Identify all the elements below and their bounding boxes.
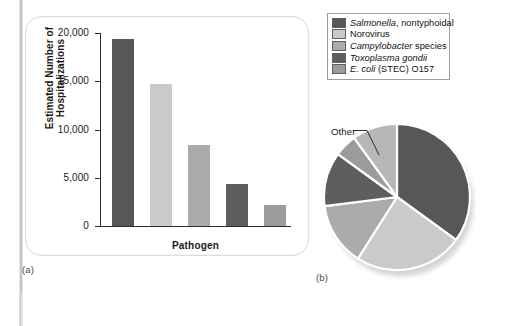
- y-axis-line: [100, 33, 101, 226]
- bar: [264, 205, 286, 226]
- legend-item-label-plain: (STEC) O157: [375, 64, 434, 74]
- legend-swatch-icon: [332, 18, 346, 28]
- legend-swatch-icon: [332, 53, 346, 63]
- page-gutter: [19, 0, 23, 326]
- legend-swatch-icon: [332, 29, 346, 39]
- bar: [226, 184, 248, 226]
- y-axis-tick-label: 15,000: [33, 75, 89, 86]
- bar-chart-plot-area: 05,00010,00015,00020,000: [100, 33, 290, 226]
- bar-chart-x-axis-label: Pathogen: [100, 240, 291, 251]
- legend-item: Norovirus: [332, 29, 445, 41]
- legend-item: Salmonella, nontyphoidal: [332, 17, 445, 29]
- legend-item-label: Toxoplasma gondii: [350, 53, 427, 63]
- figure-caption-b: (b): [316, 272, 328, 283]
- legend-item-label-italic: E. coli: [350, 64, 375, 74]
- y-axis-tick-label: 20,000: [33, 27, 89, 38]
- bar-chart-panel: Estimated Number of Hospitalizations 05,…: [25, 16, 309, 256]
- y-axis-tick: [95, 33, 100, 34]
- legend-item-label-italic: Campylobacter: [350, 41, 412, 51]
- legend-item-label: Norovirus: [350, 29, 390, 39]
- legend-item-label: Campylobacter species: [350, 41, 447, 51]
- chart-legend: Salmonella, nontyphoidalNorovirusCampylo…: [327, 13, 450, 80]
- legend-item-label-plain: species: [412, 41, 446, 51]
- x-axis-line: [100, 226, 291, 227]
- pie-annotation-other: Other: [331, 126, 356, 137]
- pie-chart-panel: Salmonella, nontyphoidal: 35Norovirus: 2…: [322, 122, 474, 274]
- bar: [112, 39, 134, 226]
- legend-item-label-italic: Toxoplasma gondii: [350, 53, 427, 63]
- bar: [150, 84, 172, 226]
- y-axis-tick: [95, 130, 100, 131]
- y-axis-tick-label: 5,000: [33, 172, 89, 183]
- y-axis-tick: [95, 178, 100, 179]
- y-axis-tick: [95, 81, 100, 82]
- legend-item: Campylobacter species: [332, 40, 445, 52]
- legend-item: Toxoplasma gondii: [332, 52, 445, 64]
- y-axis-tick-label: 0: [33, 220, 89, 231]
- figure-caption-a: (a): [22, 264, 34, 275]
- pie-chart-graphic: Salmonella, nontyphoidal: 35Norovirus: 2…: [322, 122, 474, 274]
- page-gutter-lower: [19, 293, 22, 326]
- legend-item-label-plain: Norovirus: [350, 29, 390, 39]
- legend-item-label: Salmonella, nontyphoidal: [350, 18, 454, 28]
- y-axis-tick-label: 10,000: [33, 124, 89, 135]
- legend-swatch-icon: [332, 64, 346, 74]
- bar: [188, 145, 210, 226]
- legend-item-label-italic: Salmonella: [350, 18, 396, 28]
- legend-item-label: E. coli (STEC) O157: [350, 64, 434, 74]
- legend-item: E. coli (STEC) O157: [332, 63, 445, 75]
- legend-swatch-icon: [332, 41, 346, 51]
- y-axis-tick: [95, 226, 100, 227]
- legend-item-label-plain: , nontyphoidal: [396, 18, 454, 28]
